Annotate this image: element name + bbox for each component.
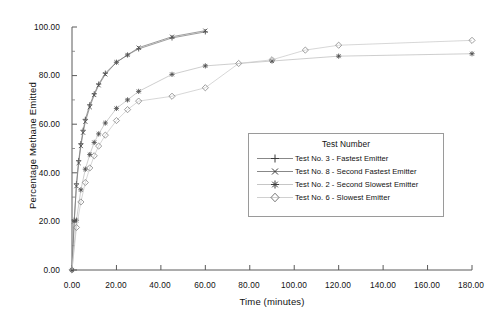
data-point-star xyxy=(169,72,174,77)
legend-label-test-8: Test No. 8 - Second Fastest Emitter xyxy=(295,167,417,176)
data-point-star xyxy=(125,97,130,102)
chart-legend: Test Number Test No. 3 - Fastest Emitter xyxy=(248,133,444,217)
chart-figure: Percentage Methane Emitted Time (minutes… xyxy=(0,0,489,318)
legend-label-test-6: Test No. 6 - Slowest Emitter xyxy=(295,193,390,202)
legend-marker-star-icon xyxy=(255,178,295,191)
data-point-star xyxy=(92,140,97,145)
data-point-star xyxy=(114,106,119,111)
legend-item-test-6[interactable]: Test No. 6 - Slowest Emitter xyxy=(249,191,443,204)
legend-label-test-3: Test No. 3 - Fastest Emitter xyxy=(295,154,388,163)
legend-title: Test Number xyxy=(249,139,443,149)
data-point-star xyxy=(96,131,101,136)
series-1 xyxy=(69,29,208,272)
legend-item-test-3[interactable]: Test No. 3 - Fastest Emitter xyxy=(249,152,443,165)
data-point-star xyxy=(78,187,83,192)
data-point-star xyxy=(103,120,108,125)
legend-label-test-2: Test No. 2 - Second Slowest Emitter xyxy=(295,180,418,189)
data-point-star xyxy=(336,54,341,59)
data-point-star xyxy=(203,63,208,68)
legend-item-test-8[interactable]: Test No. 8 - Second Fastest Emitter xyxy=(249,165,443,178)
legend-item-test-2[interactable]: Test No. 2 - Second Slowest Emitter xyxy=(249,178,443,191)
legend-marker-diamond-icon xyxy=(255,191,295,204)
legend-marker-plus-icon xyxy=(255,152,295,165)
data-point-star xyxy=(136,89,141,94)
data-point-star xyxy=(469,51,474,56)
legend-marker-x-icon xyxy=(255,165,295,178)
series-2 xyxy=(70,29,207,272)
